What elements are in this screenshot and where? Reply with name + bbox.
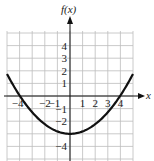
svg-text:4: 4 (118, 97, 124, 109)
svg-text:1: 1 (62, 77, 68, 89)
svg-text:3: 3 (105, 97, 111, 109)
svg-text:1: 1 (80, 97, 86, 109)
chart: −4−2−112344321−1−2−4 f(x) x (0, 0, 154, 161)
svg-text:4: 4 (62, 40, 68, 52)
x-axis-arrow-icon (138, 93, 145, 99)
svg-text:3: 3 (62, 52, 68, 64)
svg-text:2: 2 (62, 65, 68, 77)
svg-text:−2: −2 (55, 115, 67, 127)
y-axis-label: f(x) (61, 3, 77, 16)
svg-text:−4: −4 (12, 97, 24, 109)
svg-text:−4: −4 (55, 140, 67, 152)
x-axis-label: x (145, 89, 151, 101)
svg-text:−1: −1 (55, 103, 67, 115)
svg-text:2: 2 (92, 97, 98, 109)
y-axis-arrow-icon (67, 16, 73, 24)
